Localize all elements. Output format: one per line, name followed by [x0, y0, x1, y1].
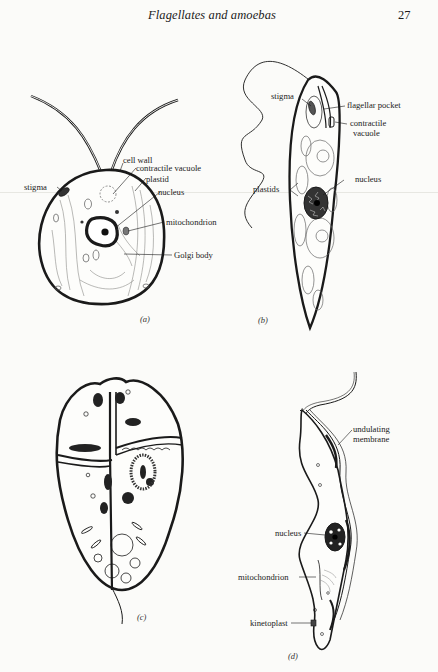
- label-b-vacuole: vacuole: [353, 129, 380, 138]
- caption-a: (a): [140, 314, 150, 324]
- caption-d: (d): [288, 651, 298, 661]
- caption-c: (c): [137, 612, 146, 622]
- label-b-nucleus: nucleus: [355, 175, 381, 184]
- figure-a-drawing: [31, 96, 178, 304]
- label-d-undulating: undulating: [353, 425, 390, 434]
- label-b-contractile: contractile: [350, 119, 386, 128]
- label-b-plastids: plastids: [253, 185, 279, 194]
- textbook-page: Flagellates and amoebas 27: [0, 0, 438, 672]
- label-a-nucleus: nucleus: [158, 188, 184, 197]
- label-d-mitochondrion: mitochondrion: [238, 573, 289, 582]
- caption-b: (b): [258, 315, 268, 325]
- label-d-membrane: membrane: [353, 435, 389, 444]
- label-b-flagellar-pocket: flagellar pocket: [347, 101, 401, 110]
- label-b-stigma: stigma: [271, 92, 294, 101]
- figure-b-drawing: [241, 61, 347, 328]
- label-d-nucleus: nucleus: [275, 529, 301, 538]
- label-a-mitochondrion: mitochondrion: [166, 218, 217, 227]
- label-d-kinetoplast: kinetoplast: [250, 619, 288, 628]
- label-a-golgi-body: Golgi body: [174, 251, 213, 260]
- label-a-contractile-vacuole: contractile vacuole: [136, 164, 201, 173]
- figure-c-drawing: [57, 378, 183, 624]
- figure-d-drawing: [291, 372, 357, 649]
- label-a-stigma: stigma: [24, 183, 47, 192]
- label-a-plastid: plastid: [146, 175, 169, 184]
